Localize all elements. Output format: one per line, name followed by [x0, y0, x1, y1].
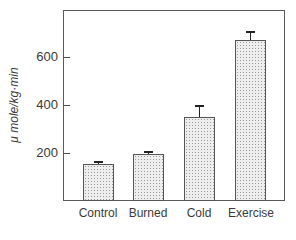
y-tick-label-200: 200	[12, 146, 58, 160]
error-cap-control	[94, 161, 103, 163]
bar-exercise	[235, 40, 266, 201]
y-tick-label-600: 600	[12, 50, 58, 64]
bar-cold	[184, 117, 215, 201]
x-label-cold: Cold	[169, 206, 229, 220]
bar-burned	[133, 154, 164, 201]
bar-control	[83, 164, 114, 201]
y-tick-600	[63, 57, 70, 58]
error-cap-exercise	[246, 31, 255, 33]
x-label-exercise: Exercise	[221, 206, 281, 220]
error-cap-burned	[144, 151, 153, 153]
y-tick-400	[63, 105, 70, 106]
y-axis-label: μ mole/kg·min	[7, 67, 21, 142]
y-tick-200	[63, 153, 70, 154]
error-cap-cold	[195, 105, 204, 107]
